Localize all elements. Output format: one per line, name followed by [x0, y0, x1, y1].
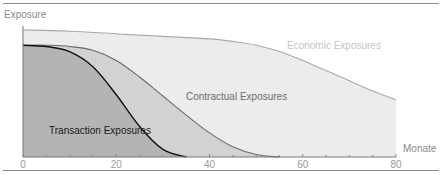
- x-tick-label: 0: [20, 159, 26, 170]
- x-tick-label: 40: [204, 159, 216, 170]
- label-contractual-exposures: Contractual Exposures: [186, 91, 287, 102]
- x-axis-label: Monate: [403, 143, 437, 154]
- x-tick-label: 80: [390, 159, 402, 170]
- x-tick-label: 60: [297, 159, 309, 170]
- bottom-rule: [3, 170, 439, 171]
- x-tick-label: 20: [111, 159, 123, 170]
- label-economic-exposures: Economic Exposures: [287, 40, 381, 51]
- exposure-chart: 020406080 Economic Exposures Contractual…: [0, 0, 444, 175]
- label-transaction-exposures: Transaction Exposures: [49, 125, 151, 136]
